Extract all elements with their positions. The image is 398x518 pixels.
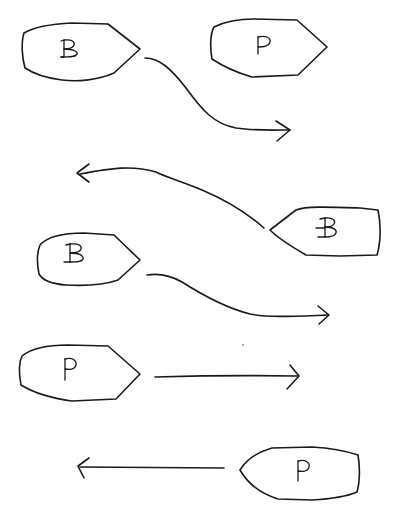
letter-b-glyph bbox=[64, 244, 83, 262]
arrow-left-curved-2 bbox=[77, 164, 264, 228]
boat-hull-outline bbox=[22, 23, 140, 81]
boat-b-barred-middle-right bbox=[270, 207, 380, 256]
paper-speck bbox=[242, 344, 244, 346]
boat-p-bottom-right bbox=[240, 447, 359, 500]
arrowhead-left-icon bbox=[78, 458, 89, 478]
arrow-left-straight-5 bbox=[78, 458, 224, 478]
boat-p-lower-left bbox=[20, 345, 140, 401]
boat-b-top-left: B bbox=[0, 0, 140, 81]
arrow-shaft bbox=[145, 58, 290, 130]
diagram-canvas: B bbox=[0, 0, 398, 518]
arrow-right-curved-3 bbox=[147, 274, 329, 324]
boat-hull-outline bbox=[240, 447, 359, 500]
letter-p-glyph bbox=[258, 36, 270, 54]
arrowhead-right-icon bbox=[276, 121, 290, 141]
letter-b-barred-glyph bbox=[316, 218, 336, 237]
boat-hull-outline bbox=[38, 233, 140, 285]
arrow-shaft bbox=[80, 168, 264, 228]
letter-p-glyph bbox=[65, 358, 76, 380]
boat-hull-outline bbox=[211, 19, 327, 77]
letter-p-glyph bbox=[298, 460, 309, 481]
arrow-right-straight-4 bbox=[155, 365, 299, 389]
letter-b-glyph bbox=[61, 40, 77, 57]
boat-b-middle-left bbox=[38, 233, 140, 285]
arrow-shaft bbox=[80, 467, 224, 468]
arrow-shaft bbox=[147, 274, 328, 316]
arrowhead-right-icon bbox=[287, 365, 299, 389]
arrow-shaft bbox=[155, 376, 298, 377]
boat-p-top-right bbox=[211, 19, 327, 77]
arrow-right-curved-1 bbox=[145, 58, 290, 141]
boat-hull-outline bbox=[20, 345, 140, 401]
